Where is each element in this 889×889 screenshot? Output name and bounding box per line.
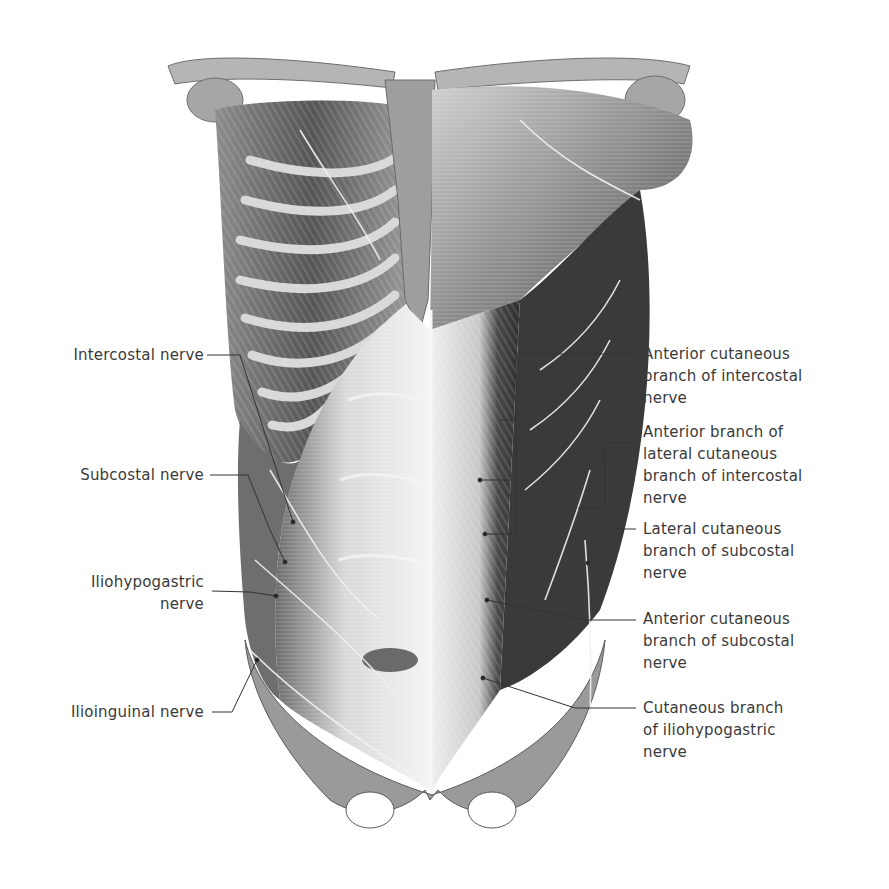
label-subcostal-nerve: Subcostal nerve bbox=[80, 464, 204, 486]
label-anterior-branch-lateral-cutaneous: Anterior branch of lateral cutaneous bra… bbox=[643, 421, 802, 509]
label-anterior-cutaneous-branch-subcostal: Anterior cutaneous branch of subcostal n… bbox=[643, 608, 794, 674]
anatomy-figure: Intercostal nerve Subcostal nerve Iliohy… bbox=[0, 0, 889, 889]
label-ilioinguinal-nerve: Ilioinguinal nerve bbox=[71, 701, 204, 723]
label-intercostal-nerve: Intercostal nerve bbox=[73, 344, 204, 366]
label-iliohypogastric-nerve: Iliohypogastric nerve bbox=[91, 571, 204, 615]
label-lateral-cutaneous-branch-subcostal: Lateral cutaneous branch of subcostal ne… bbox=[643, 518, 794, 584]
label-cutaneous-branch-iliohypogastric: Cutaneous branch of iliohypogastric nerv… bbox=[643, 697, 783, 763]
label-anterior-cutaneous-branch-intercostal: Anterior cutaneous branch of intercostal… bbox=[643, 343, 802, 409]
